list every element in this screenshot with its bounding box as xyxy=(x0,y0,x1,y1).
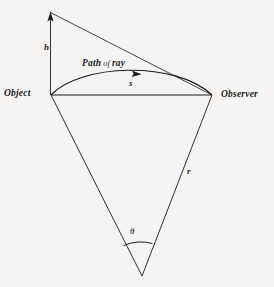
ray-path-label-prefix: Path xyxy=(82,58,101,68)
observer-label: Observer xyxy=(221,90,258,100)
diagram-figure: Object Observer h s r θ Pathofray xyxy=(0,0,274,287)
ray-direction-arrowhead xyxy=(132,70,142,77)
arc-distance-label: s xyxy=(129,79,133,88)
radius-line-right xyxy=(142,95,212,276)
radius-line-left xyxy=(51,95,142,276)
object-label: Object xyxy=(4,89,31,99)
diagram-canvas xyxy=(0,0,274,287)
height-label: h xyxy=(44,43,49,52)
ray-path-label: Pathofray xyxy=(82,59,125,69)
radius-label: r xyxy=(187,167,191,176)
angle-label: θ xyxy=(130,227,135,236)
ray-path-label-of: of xyxy=(103,59,110,68)
angle-arc xyxy=(124,242,153,246)
ray-path-label-suffix: ray xyxy=(112,58,125,68)
